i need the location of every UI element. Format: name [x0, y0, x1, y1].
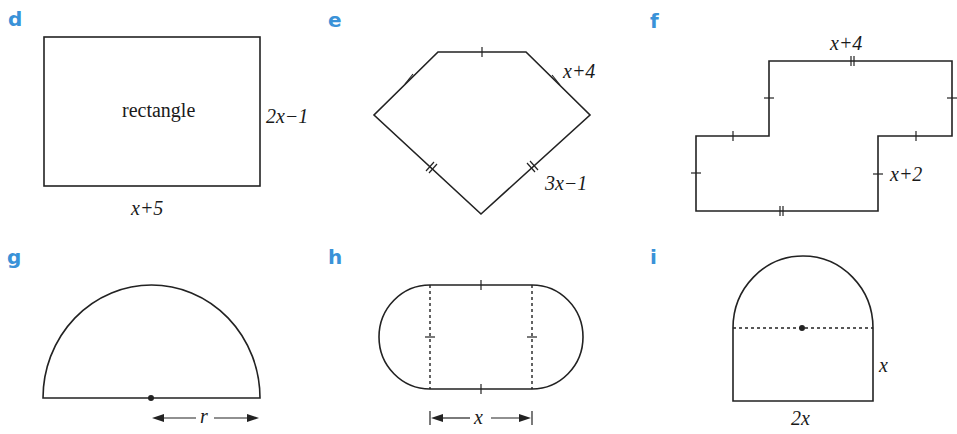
stepped-polygon-shape [696, 61, 952, 211]
figure-label-g: g [7, 245, 21, 269]
width-label: x [473, 406, 483, 428]
figure-label-h: h [328, 245, 342, 269]
stepped-top-label: x+4 [829, 32, 862, 54]
tick-mark [405, 74, 413, 84]
radius-label: r [200, 405, 208, 427]
pentagon-top-right-label: x+4 [562, 60, 595, 82]
center-point [148, 395, 154, 401]
semicircle-shape [43, 285, 260, 398]
rectangle-height-label: 2x−1 [266, 105, 308, 127]
figure-e: e x+4 3x−1 [328, 8, 595, 214]
figure-d: d rectangle 2x−1 x+5 [8, 7, 308, 219]
geometry-figures: d rectangle 2x−1 x+5 e x+4 3x−1 f [0, 0, 957, 434]
arch-width-label: 2x [791, 407, 810, 429]
figure-h: h x [328, 245, 583, 428]
arrow-right-icon [247, 414, 259, 422]
figure-label-f: f [650, 9, 659, 33]
figure-label-i: i [650, 245, 657, 269]
stepped-right-label: x+2 [889, 163, 922, 185]
figure-f: f x+4 x+2 [650, 9, 957, 216]
stadium-shape [379, 285, 583, 389]
arrow-left-icon [152, 414, 164, 422]
pentagon-bottom-right-label: 3x−1 [544, 172, 587, 194]
rectangle-width-label: x+5 [130, 197, 163, 219]
center-point [799, 325, 805, 331]
figure-i: i x 2x [650, 245, 888, 429]
figure-label-e: e [328, 8, 342, 32]
figure-g: g r [7, 245, 260, 427]
arrow-right-icon [519, 414, 531, 422]
arch-height-label: x [878, 354, 888, 376]
tick-mark [552, 75, 560, 85]
rectangle-inner-text: rectangle [122, 99, 195, 122]
figure-label-d: d [8, 7, 22, 31]
arrow-left-icon [431, 414, 443, 422]
